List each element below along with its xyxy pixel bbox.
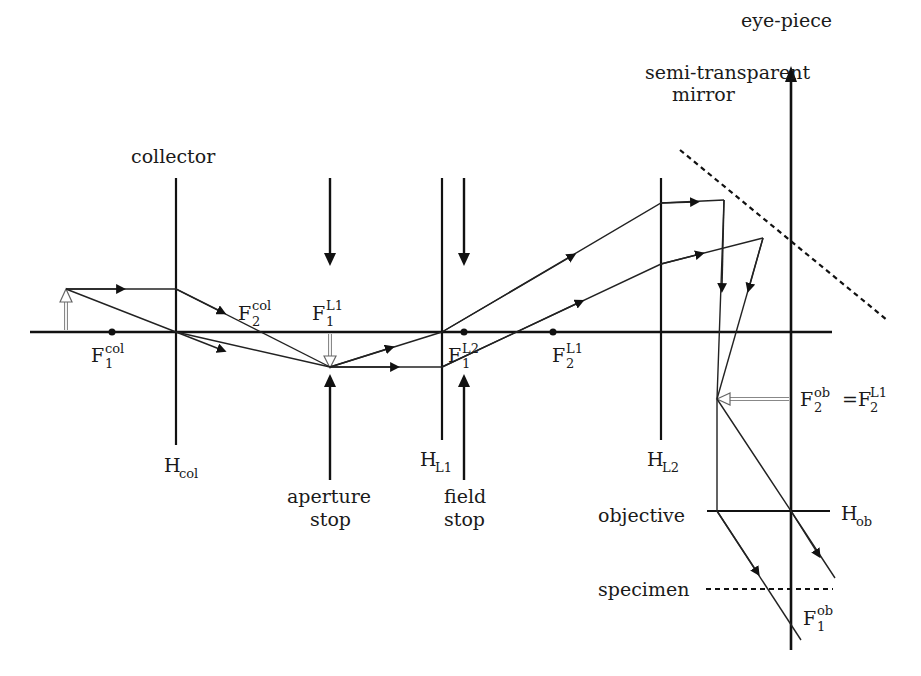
f2-col-label: F 2 col xyxy=(238,298,271,329)
svg-text:F: F xyxy=(800,388,813,410)
svg-text:ob: ob xyxy=(814,385,830,400)
aperture-stop-label-line2: stop xyxy=(310,508,351,530)
h-col-label: H col xyxy=(164,454,198,481)
svg-text:col: col xyxy=(252,298,271,313)
f1-l2-label: F 1 L2 xyxy=(448,341,479,371)
svg-text:L1: L1 xyxy=(435,460,452,475)
objective-label: objective xyxy=(598,504,685,526)
mirror-label-line2: mirror xyxy=(672,83,736,105)
svg-text:L1: L1 xyxy=(566,341,583,356)
f2-l1-point xyxy=(550,329,557,336)
svg-text:ob: ob xyxy=(856,514,872,529)
svg-text:col: col xyxy=(179,466,198,481)
svg-text:1: 1 xyxy=(326,314,334,329)
svg-text:2: 2 xyxy=(870,400,878,415)
svg-text:L1: L1 xyxy=(326,298,343,313)
specimen-label: specimen xyxy=(598,578,689,600)
light-rays xyxy=(66,200,835,640)
svg-text:F: F xyxy=(91,344,104,366)
svg-text:1: 1 xyxy=(105,356,113,371)
h-l1-label: H L1 xyxy=(420,448,452,475)
svg-text:F: F xyxy=(238,302,251,324)
svg-text:col: col xyxy=(105,341,124,356)
f2-ob-equals-label: =F 2 L1 xyxy=(842,385,887,415)
svg-text:ob: ob xyxy=(817,603,833,618)
f1-ob-label: F 1 ob xyxy=(803,603,833,634)
h-l2-label: H L2 xyxy=(647,448,679,475)
svg-text:F: F xyxy=(552,344,565,366)
svg-text:L1: L1 xyxy=(870,385,887,400)
svg-text:1: 1 xyxy=(462,356,470,371)
field-stop-label-line1: field xyxy=(444,485,486,507)
svg-text:=F: =F xyxy=(842,388,871,410)
f2-ob-label: F 2 ob xyxy=(800,385,830,415)
svg-text:2: 2 xyxy=(252,314,260,329)
collector-label: collector xyxy=(131,145,216,167)
svg-text:F: F xyxy=(312,302,325,324)
eyepiece-label: eye-piece xyxy=(741,9,832,31)
optical-diagram: eye-piece semi-transparent mirror collec… xyxy=(0,0,921,676)
aperture-stop-label-line1: aperture xyxy=(287,485,371,507)
svg-text:1: 1 xyxy=(817,619,825,634)
h-ob-label: H ob xyxy=(841,502,872,529)
svg-text:L2: L2 xyxy=(662,460,679,475)
f1-l2-point xyxy=(461,329,468,336)
f1-col-point xyxy=(109,329,116,336)
svg-text:L2: L2 xyxy=(462,341,479,356)
mirror-label-line1: semi-transparent xyxy=(645,61,811,83)
svg-text:F: F xyxy=(448,344,461,366)
f1-col-label: F 1 col xyxy=(91,341,124,371)
svg-text:2: 2 xyxy=(814,400,822,415)
semi-transparent-mirror xyxy=(680,150,887,320)
svg-text:2: 2 xyxy=(566,356,574,371)
field-stop-label-line2: stop xyxy=(444,508,485,530)
svg-text:F: F xyxy=(803,607,816,629)
f1-l1-label: F 1 L1 xyxy=(312,298,343,329)
f2-l1-label: F 2 L1 xyxy=(552,341,583,371)
